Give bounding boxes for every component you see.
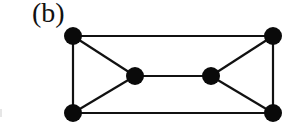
node-middle-right bbox=[202, 67, 220, 85]
edge-bottom-right-middle-right bbox=[211, 76, 273, 113]
node-bottom-left bbox=[64, 104, 82, 122]
edge-top-left-middle-left bbox=[73, 36, 135, 76]
node-top-right bbox=[264, 27, 282, 45]
graph-edges bbox=[73, 36, 273, 113]
graph-figure: (b) bbox=[0, 0, 293, 124]
node-top-left bbox=[64, 27, 82, 45]
edge-bottom-left-middle-left bbox=[73, 76, 135, 113]
edge-top-right-middle-right bbox=[211, 36, 273, 76]
graph-nodes bbox=[64, 27, 282, 122]
node-bottom-right bbox=[264, 104, 282, 122]
node-middle-left bbox=[126, 67, 144, 85]
graph-drawing bbox=[0, 0, 293, 124]
